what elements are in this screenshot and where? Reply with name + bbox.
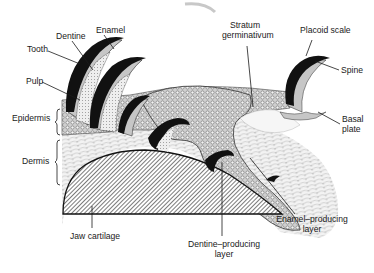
label-placoid-scale: Placoid scale — [300, 26, 351, 36]
label-stratum-line2: germinativum — [222, 31, 268, 41]
label-stratum-germinativum: Stratum germinativum — [222, 21, 268, 40]
label-enamel-producing-layer: Enamel–producing layer — [272, 215, 352, 234]
label-dermis: Dermis — [22, 157, 49, 167]
label-basal-plate: Basal plate — [342, 115, 364, 134]
braces — [55, 109, 60, 185]
placoid-scale — [280, 56, 330, 120]
label-basal-line2: plate — [342, 125, 364, 135]
label-jaw-cartilage: Jaw cartilage — [70, 232, 120, 242]
smudge — [185, 4, 215, 12]
label-tooth: Tooth — [27, 45, 48, 55]
label-enamel: Enamel — [96, 26, 125, 36]
label-dentine: Dentine — [56, 32, 86, 42]
diagram-canvas: Tooth Dentine Enamel Pulp Epidermis Derm… — [0, 0, 374, 273]
label-dentine-layer-line2: layer — [185, 250, 263, 260]
label-epidermis: Epidermis — [12, 114, 50, 124]
label-pulp: Pulp — [26, 77, 43, 87]
label-spine: Spine — [341, 66, 363, 76]
label-dentine-producing-layer: Dentine–producing layer — [185, 240, 263, 259]
label-enamel-layer-line2: layer — [272, 225, 352, 235]
